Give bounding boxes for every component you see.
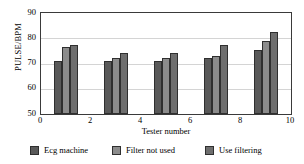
x-tick-label: 2 (80, 115, 100, 125)
legend-item: Use filtering (205, 143, 262, 157)
bar (220, 45, 228, 114)
bar (204, 58, 212, 114)
bar (262, 41, 270, 114)
bar (170, 53, 178, 114)
bar (212, 56, 220, 114)
x-tick-label: 8 (230, 115, 250, 125)
bar (112, 58, 120, 114)
x-tick-label: 4 (130, 115, 150, 125)
x-tick-label: 6 (180, 115, 200, 125)
legend-swatch-icon (112, 146, 121, 155)
plot-area (40, 12, 292, 115)
y-tick-label: 60 (16, 83, 36, 92)
x-tick-label: 0 (30, 115, 50, 125)
bar (104, 61, 112, 114)
legend-swatch-icon (30, 146, 39, 155)
bar-chart-figure: PULSE/BPM 5060708090 0246810 Tester numb… (0, 0, 304, 164)
legend-label: Use filtering (219, 145, 262, 155)
y-tick-label: 90 (16, 8, 36, 17)
x-axis-title: Tester number (40, 126, 292, 136)
y-axis-tick-labels: 5060708090 (14, 0, 36, 164)
chart-legend: Ecg machineFilter not usedUse filtering (30, 143, 280, 159)
bar (120, 53, 128, 114)
legend-swatch-icon (205, 146, 214, 155)
x-tick-label: 10 (280, 115, 300, 125)
bar (62, 47, 70, 114)
bar (54, 61, 62, 114)
legend-label: Filter not used (126, 145, 175, 155)
bar (154, 61, 162, 114)
legend-item: Filter not used (112, 143, 175, 157)
bar (70, 45, 78, 114)
legend-item: Ecg machine (30, 143, 88, 157)
bar (254, 50, 262, 114)
legend-label: Ecg machine (44, 145, 88, 155)
y-tick-label: 80 (16, 33, 36, 42)
bar (162, 58, 170, 114)
bar (270, 32, 278, 114)
gridline (41, 38, 291, 39)
y-tick-label: 70 (16, 58, 36, 67)
